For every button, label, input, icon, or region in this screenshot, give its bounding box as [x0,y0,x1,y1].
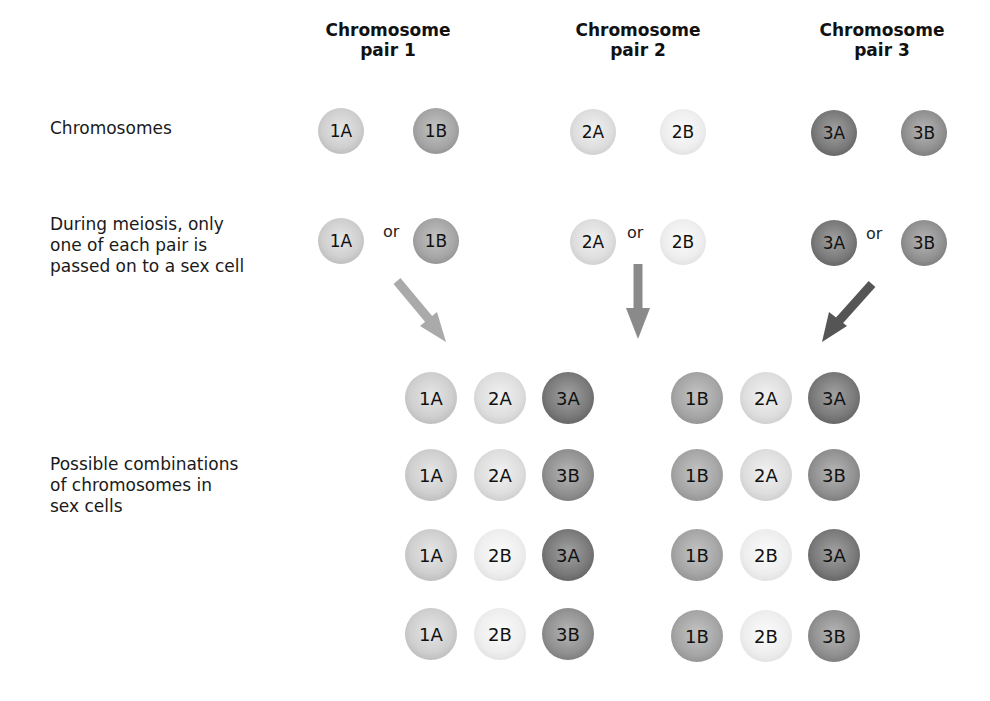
arrows-layer [0,0,990,701]
combo-7-chromosome-2: 2B [740,529,792,581]
combo-4-chromosome-1: 1A [405,608,457,660]
combo-3-chromosome-3: 3A [542,529,594,581]
combo-2-chromosome-3: 3B [542,449,594,501]
combo-3-chromosome-2: 2B [474,529,526,581]
combo-4-chromosome-3: 3B [542,608,594,660]
combo-3-chromosome-1: 1A [405,529,457,581]
combo-8-chromosome-1: 1B [671,610,723,662]
combo-7-chromosome-1: 1B [671,529,723,581]
combo-5-chromosome-1: 1B [671,372,723,424]
combo-7-chromosome-3: 3A [808,529,860,581]
combo-8-chromosome-3: 3B [808,610,860,662]
combo-6-chromosome-1: 1B [671,449,723,501]
arrow-pair-3-icon [822,284,872,342]
arrow-pair-1-icon [397,281,446,342]
combo-6-chromosome-2: 2A [740,449,792,501]
combo-5-chromosome-3: 3A [808,372,860,424]
combo-8-chromosome-2: 2B [740,610,792,662]
arrow-pair-2-icon [626,264,650,339]
combo-5-chromosome-2: 2A [740,372,792,424]
combo-2-chromosome-1: 1A [405,449,457,501]
combo-2-chromosome-2: 2A [474,449,526,501]
combo-1-chromosome-1: 1A [405,372,457,424]
combo-4-chromosome-2: 2B [474,608,526,660]
combo-1-chromosome-3: 3A [542,372,594,424]
combo-1-chromosome-2: 2A [474,372,526,424]
combo-6-chromosome-3: 3B [808,449,860,501]
